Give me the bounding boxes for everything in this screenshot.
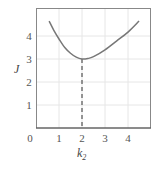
x-tick-label: 0: [27, 132, 33, 144]
x-axis-label-sub: 2: [82, 153, 86, 162]
y-tick-label: 4: [26, 30, 32, 42]
y-tick-labels: 1234: [26, 30, 32, 111]
x-tick-label: 3: [102, 132, 108, 144]
y-tick-label: 1: [26, 99, 32, 111]
y-axis-label: J: [14, 62, 20, 76]
x-tick-labels: 01234: [27, 132, 131, 144]
x-tick-label: 4: [125, 132, 131, 144]
x-tick-label: 2: [79, 132, 85, 144]
x-axis-label: k2: [77, 146, 86, 162]
y-tick-label: 2: [26, 76, 32, 88]
chart: 01234 1234 J k2: [0, 0, 157, 170]
j-curve: [49, 21, 139, 59]
y-tick-label: 3: [26, 53, 32, 65]
x-tick-label: 1: [56, 132, 62, 144]
